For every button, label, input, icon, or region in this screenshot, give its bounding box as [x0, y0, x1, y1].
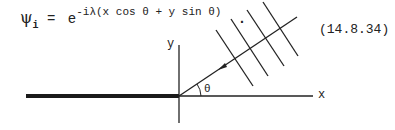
y-axis-label: y [167, 37, 174, 51]
diffraction-diagram [0, 0, 395, 130]
wavefront-line [247, 10, 284, 66]
angle-arc [197, 84, 201, 96]
wavefront-line [231, 19, 268, 76]
angle-label: θ [204, 83, 211, 95]
wavefront-line [263, 2, 298, 56]
x-axis-label: x [318, 88, 325, 102]
wavefront-line [216, 30, 253, 86]
